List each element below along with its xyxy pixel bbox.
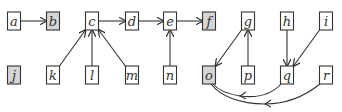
node-q: q (281, 66, 294, 84)
node-label: g (244, 14, 252, 29)
node-p: p (242, 66, 255, 84)
node-label: b (49, 14, 57, 29)
node-label: c (88, 14, 96, 29)
edge-r-o (265, 84, 320, 104)
node-k: k (47, 66, 60, 84)
node-n: n (164, 66, 177, 84)
edge-q-o-arrowhead (240, 92, 246, 99)
node-j: j (8, 66, 21, 84)
node-label: r (323, 68, 330, 83)
edge-g-o (216, 30, 242, 66)
node-label: i (324, 14, 328, 29)
node-o: o (203, 66, 216, 84)
node-label: n (166, 68, 174, 83)
node-r: r (320, 66, 333, 84)
curved-edges (211, 84, 320, 107)
node-label: m (126, 68, 138, 83)
node-c: c (86, 12, 99, 30)
edge-r-o-tail (211, 84, 265, 104)
edge-i-q (294, 30, 320, 66)
graph-diagram: abcdefghijklmnopqr (0, 0, 342, 112)
node-a: a (8, 12, 21, 30)
node-label: l (90, 68, 94, 83)
node-label: a (10, 14, 18, 29)
edge-m-c (99, 30, 126, 66)
node-label: k (49, 68, 57, 83)
node-label: p (244, 68, 253, 83)
node-d: d (126, 12, 139, 30)
node-i: i (320, 12, 333, 30)
node-e: e (164, 12, 177, 30)
node-label: o (205, 68, 213, 83)
node-label: h (283, 14, 291, 29)
node-h: h (281, 12, 294, 30)
node-f: f (203, 12, 216, 30)
node-m: m (126, 66, 139, 84)
node-b: b (47, 12, 60, 30)
edge-q-o (240, 84, 281, 97)
node-label: e (166, 14, 174, 29)
node-g: g (242, 12, 255, 30)
node-l: l (86, 66, 99, 84)
node-label: d (128, 14, 136, 29)
node-label: q (283, 68, 291, 83)
edge-k-c (60, 30, 86, 66)
